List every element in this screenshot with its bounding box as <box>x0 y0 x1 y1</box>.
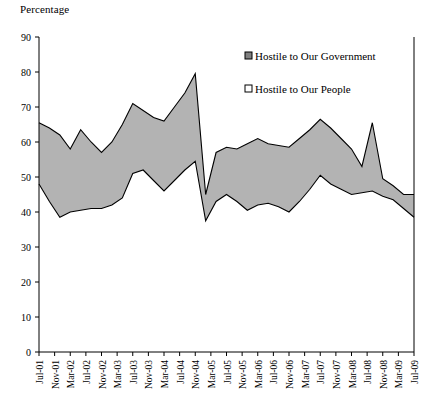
x-tick-label: Nov-08 <box>379 360 389 389</box>
x-axis-ticks: Jul-01Nov-01Mar-02Jul-02Nov-02Mar-03Jul-… <box>35 352 420 389</box>
x-tick-label: Mar-07 <box>301 360 311 389</box>
x-tick-label: Mar-05 <box>207 360 217 389</box>
x-tick-label: Jul-04 <box>176 360 186 384</box>
x-tick-label: Jul-01 <box>35 360 45 384</box>
area-chart: 0102030405060708090 Jul-01Nov-01Mar-02Ju… <box>0 0 425 412</box>
x-tick-label: Nov-04 <box>191 360 201 389</box>
y-tick-label: 10 <box>21 312 31 323</box>
chart-legend: Hostile to Our Government Hostile to Our… <box>245 50 376 95</box>
x-tick-label: Mar-02 <box>66 360 76 389</box>
x-tick-label: Jul-03 <box>129 360 139 384</box>
x-tick-label: Mar-08 <box>348 360 358 389</box>
x-tick-label: Jul-09 <box>410 360 420 384</box>
legend-swatch-hostile-to-our-government <box>245 52 252 59</box>
x-tick-label: Nov-03 <box>144 360 154 389</box>
x-tick-label: Mar-09 <box>394 360 404 389</box>
y-axis-ticks: 0102030405060708090 <box>21 32 39 358</box>
x-tick-label: Nov-01 <box>51 360 61 389</box>
y-tick-label: 70 <box>21 102 31 113</box>
y-tick-label: 90 <box>21 32 31 43</box>
x-tick-label: Jul-05 <box>223 360 233 384</box>
y-tick-label: 50 <box>21 172 31 183</box>
legend-label-hostile-to-our-government: Hostile to Our Government <box>255 50 376 62</box>
x-tick-label: Jul-02 <box>82 360 92 384</box>
x-tick-label: Nov-02 <box>98 360 108 389</box>
x-tick-label: Nov-05 <box>238 360 248 389</box>
x-tick-label: Jul-06 <box>269 360 279 384</box>
legend-swatch-hostile-to-our-people <box>245 85 252 92</box>
y-tick-label: 30 <box>21 242 31 253</box>
x-tick-label: Jul-07 <box>316 360 326 384</box>
x-tick-label: Mar-03 <box>113 360 123 389</box>
y-tick-label: 0 <box>26 347 31 358</box>
chart-container: Percentage 0102030405060708090 Jul-01Nov… <box>0 0 425 412</box>
x-tick-label: Nov-07 <box>332 360 342 389</box>
y-tick-label: 60 <box>21 137 31 148</box>
y-tick-label: 40 <box>21 207 31 218</box>
x-tick-label: Nov-06 <box>285 360 295 389</box>
y-tick-label: 80 <box>21 67 31 78</box>
legend-label-hostile-to-our-people: Hostile to Our People <box>255 83 351 95</box>
x-tick-label: Mar-06 <box>254 360 264 389</box>
x-tick-label: Jul-08 <box>363 360 373 384</box>
y-tick-label: 20 <box>21 277 31 288</box>
x-tick-label: Mar-04 <box>160 360 170 389</box>
